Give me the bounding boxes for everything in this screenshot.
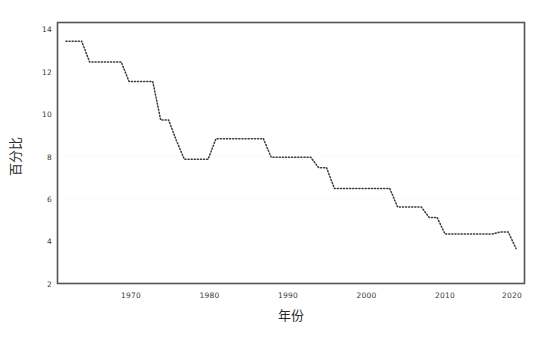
ytick-label-14: 14 (34, 25, 52, 34)
x-axis-label: 年份 (278, 305, 304, 324)
xtick-label-2010: 2010 (435, 291, 455, 300)
ytick-label-10: 10 (34, 110, 52, 119)
xtick-label-1980: 1980 (200, 291, 220, 300)
xtick-label-1990: 1990 (278, 291, 298, 300)
y-axis-label: 百分比 (5, 137, 24, 176)
ytick-label-8: 8 (34, 152, 52, 161)
ytick-label-12: 12 (34, 67, 52, 76)
ytick-label-4: 4 (34, 237, 52, 246)
xtick-label-1970: 1970 (121, 291, 141, 300)
ytick-label-2: 2 (34, 279, 52, 288)
chart-plot-area (0, 0, 550, 341)
ytick-label-6: 6 (34, 195, 52, 204)
xtick-label-2000: 2000 (357, 291, 377, 300)
xtick-label-2020: 2020 (502, 291, 522, 300)
chart-figure: 14 12 10 8 6 4 2 1970 1980 1990 2000 201… (0, 0, 550, 341)
plot-background (58, 23, 525, 284)
